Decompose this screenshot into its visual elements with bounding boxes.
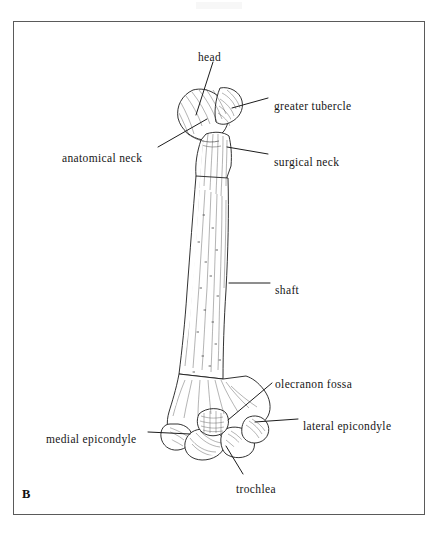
label-olecranon-fossa: olecranon fossa	[275, 379, 352, 391]
panel-letter: B	[22, 487, 31, 502]
label-lateral-epicondyle: lateral epicondyle	[303, 421, 391, 433]
label-greater-tubercle: greater tubercle	[274, 101, 351, 113]
page-bleed-artifact	[196, 2, 242, 9]
label-anatomical-neck: anatomical neck	[62, 153, 142, 165]
label-surgical-neck: surgical neck	[274, 157, 339, 169]
label-head: head	[198, 52, 221, 64]
label-trochlea: trochlea	[236, 484, 276, 496]
figure-container: head greater tubercle anatomical neck su…	[0, 0, 438, 534]
label-medial-epicondyle: medial epicondyle	[46, 434, 137, 446]
label-shaft: shaft	[275, 285, 299, 297]
